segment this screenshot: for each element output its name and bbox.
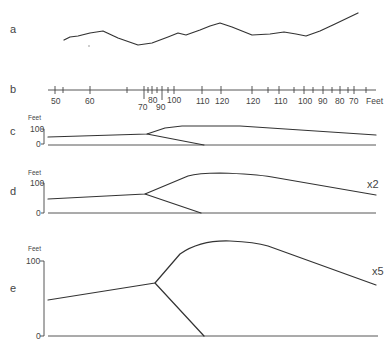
y-axis-e xyxy=(40,261,44,336)
scale-label: 70 xyxy=(349,96,359,106)
speck xyxy=(88,45,89,46)
exaggeration-d: x2 xyxy=(367,178,379,190)
panel-e-label: e xyxy=(10,282,16,294)
y-bottom-d: 0 xyxy=(36,208,41,218)
profile-d-lower xyxy=(145,194,201,213)
scale-label: 120 xyxy=(215,96,229,106)
scale-label: 120 xyxy=(246,96,260,106)
y-unit-c: Feet xyxy=(28,114,41,121)
scale-label: 110 xyxy=(196,96,210,106)
panel-d-label: d xyxy=(10,185,16,197)
exaggeration-e: x5 xyxy=(372,265,384,277)
profile-e-lower xyxy=(155,283,204,336)
panel-c-label: c xyxy=(10,125,16,137)
scale-label: 80 xyxy=(335,96,345,106)
scale-label: 90 xyxy=(318,96,328,106)
scale-label: 110 xyxy=(274,96,288,106)
figure: a b xyxy=(0,0,390,348)
panel-b-label: b xyxy=(10,83,16,95)
scale-label: 100 xyxy=(167,95,181,105)
scale-label: 70 xyxy=(138,102,148,112)
profile-a-line xyxy=(64,13,358,45)
profile-c-upper xyxy=(48,126,376,137)
y-unit-d: Feet xyxy=(28,169,41,176)
scale-label: 60 xyxy=(85,96,95,106)
scale-bar: 50 60 70 80 90 100 110 120 120 110 100 9… xyxy=(48,86,384,112)
y-unit-e: Feet xyxy=(28,245,41,252)
scale-label: 100 xyxy=(298,96,312,106)
y-bottom-c: 0 xyxy=(36,139,41,149)
profile-d-upper xyxy=(48,173,376,199)
scale-unit: Feet xyxy=(366,96,384,106)
scale-label: 90 xyxy=(156,102,166,112)
panel-a-label: a xyxy=(10,23,17,35)
profile-c-lower xyxy=(147,134,204,145)
scale-label: 50 xyxy=(51,96,61,106)
y-top-e: 100 xyxy=(26,256,40,266)
profile-e-upper xyxy=(48,241,376,300)
